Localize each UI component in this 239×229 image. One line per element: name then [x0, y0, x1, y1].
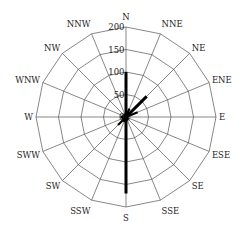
direction-label-sw: SW [46, 181, 61, 191]
direction-label-n: N [122, 12, 130, 22]
radial-tick-0: 0 [119, 112, 124, 122]
direction-label-se: SE [192, 181, 204, 191]
direction-label-ene: ENE [212, 75, 232, 85]
direction-label-ne: NE [192, 43, 206, 53]
direction-label-s: S [123, 213, 129, 223]
direction-label-nnw: NNW [67, 19, 91, 29]
direction-label-nne: NNE [162, 19, 183, 29]
grid-spoke-sw [62, 117, 126, 181]
radial-tick-50: 50 [114, 90, 125, 100]
direction-label-w: W [24, 112, 33, 122]
grid-spoke-se [126, 117, 190, 181]
radial-tick-150: 150 [108, 45, 124, 55]
grid-spoke-nw [62, 53, 126, 117]
direction-label-sse: SSE [162, 206, 180, 216]
direction-label-e: E [219, 112, 225, 122]
data-spoke-nnw [125, 115, 126, 117]
direction-label-wnw: WNW [15, 75, 40, 85]
direction-label-nw: NW [44, 43, 60, 53]
radial-tick-200: 200 [108, 22, 124, 32]
radial-tick-100: 100 [108, 67, 124, 77]
wind-rose-chart: NNNENEENEEESESESSESSSWSWSWWWWNWNWNNW 050… [0, 0, 239, 229]
direction-label-sww: SWW [17, 150, 41, 160]
direction-label-ssw: SSW [70, 206, 90, 216]
direction-label-ese: ESE [212, 150, 230, 160]
